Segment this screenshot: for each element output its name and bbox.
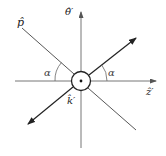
alpha-arc-right [102, 65, 108, 82]
vector-diagram: p̂ θ̂′ ẑ′ k̂′ α α [0, 0, 166, 156]
alpha-right-label: α [108, 67, 115, 78]
lower-right-line [88, 88, 136, 130]
k-hat-dot [80, 80, 83, 83]
alpha-left-label: α [44, 67, 51, 78]
k-hat-label: k̂′ [67, 94, 76, 106]
p-hat-label: p̂ [17, 16, 24, 29]
alpha-arc-left [55, 63, 62, 82]
z-hat-label: ẑ′ [145, 86, 154, 97]
theta-hat-label: θ̂′ [65, 6, 74, 17]
